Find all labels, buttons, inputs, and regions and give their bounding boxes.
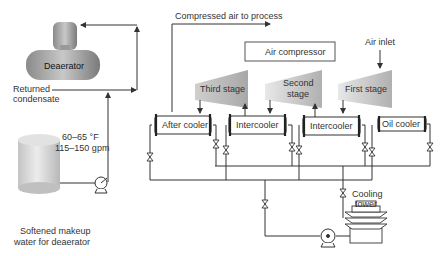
makeup-water-label-2: water for deaerator xyxy=(14,237,90,247)
air-inlet-label: Air inlet xyxy=(365,37,395,47)
second-stage-label-1: Second xyxy=(283,78,313,88)
deaerator xyxy=(26,22,100,80)
compressed-air-label: Compressed air to process xyxy=(175,11,283,21)
first-stage-label: First stage xyxy=(345,84,387,94)
cooling-water-pump xyxy=(321,229,335,247)
second-stage-label-2: stage xyxy=(283,89,313,99)
after-cooler-label: After cooler xyxy=(162,120,208,130)
temperature-label: 60–65 °F xyxy=(62,132,99,142)
flow-rate-label: 115–150 gpm xyxy=(55,143,109,153)
air-compressor-label: Air compressor xyxy=(265,47,326,57)
returned-condensate-label-2: condensate xyxy=(13,94,60,104)
returned-condensate-label-1: Returned xyxy=(13,84,50,94)
cooling-tower-label-2: tower xyxy=(355,199,377,209)
intercooler-2-label: Intercooler xyxy=(310,121,353,131)
makeup-water-label-1: Softened makeup xyxy=(20,226,91,236)
cooling-tower-label-1: Cooling xyxy=(352,189,383,199)
deaerator-label: Deaerator xyxy=(44,61,84,71)
makeup-water-tank xyxy=(18,134,60,194)
third-stage-label: Third stage xyxy=(200,84,245,94)
oil-cooler-label: Oil cooler xyxy=(382,119,420,129)
valves xyxy=(147,140,433,208)
cooling-water-piping xyxy=(150,124,430,236)
makeup-pump xyxy=(95,177,107,193)
intercooler-1-label: Intercooler xyxy=(236,120,279,130)
